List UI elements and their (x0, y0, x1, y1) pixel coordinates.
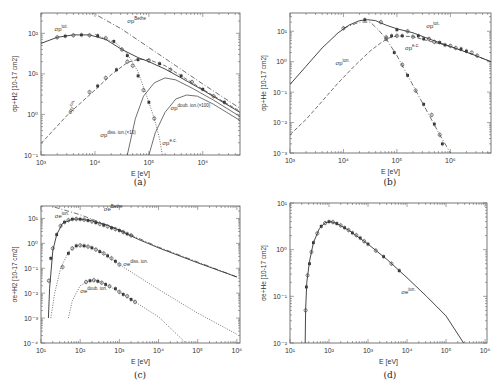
series-line (290, 20, 491, 85)
curve-annotation: σpdoub. ion.(×100) (170, 103, 210, 111)
x-tick-label: 10³ (36, 159, 47, 166)
y-axis-label: σe+H2 [10-17 cm2] (11, 246, 19, 302)
series-line (48, 219, 237, 318)
y-tick-label: 10¹ (277, 28, 288, 35)
x-tick-label: 10⁴ (153, 347, 164, 354)
y-tick-label: 10⁻⁴ (23, 340, 38, 347)
caption-b: (b) (370, 177, 410, 187)
y-tick-label: 10⁻² (24, 290, 39, 297)
y-tick-label: 10¹ (277, 200, 288, 207)
x-tick-label: 10⁴ (338, 157, 349, 164)
x-tick-label: 10⁶ (480, 347, 491, 354)
x-tick-label: 10⁴ (90, 159, 101, 166)
curve-annotation: σediss. ion. (123, 259, 148, 267)
x-axis-label: E [eV] (131, 358, 150, 366)
y-axis-label: σe+He [10-17 cm2] (260, 245, 268, 301)
y-tick-label: 10¹ (28, 70, 39, 77)
y-tick-label: 10⁻¹ (273, 89, 288, 96)
plot-frame (41, 206, 240, 343)
plot-frame (41, 13, 240, 155)
x-tick-label: 10³ (285, 157, 296, 164)
y-tick-label: 10⁻³ (24, 315, 39, 322)
curve-annotation: σeion. (401, 287, 415, 295)
x-tick-label: 10⁶ (445, 157, 456, 164)
caption-c: (c) (120, 370, 160, 380)
curve-annotation: σpdiss. ion.(×10) (100, 130, 136, 138)
x-tick-label: 10¹ (36, 347, 47, 354)
y-axis-label: σp+H2 [10-17 cm2] (11, 56, 19, 112)
x-tick-label: 10³ (114, 347, 125, 354)
x-tick-label: 10⁶ (197, 159, 208, 166)
x-tick-label: 10¹ (285, 347, 296, 354)
curve-annotation: σeBethe (104, 204, 123, 212)
y-tick-label: 10⁻² (273, 340, 288, 347)
series-line (90, 11, 241, 108)
x-tick-label: 10² (75, 347, 86, 354)
x-tick-label: 10⁵ (144, 159, 155, 166)
y-tick-label: 10⁻² (273, 119, 288, 126)
plot-frame (290, 13, 491, 153)
curve-annotation: σpBethe (127, 16, 146, 24)
curve-annotation: σeion. (55, 211, 69, 219)
caption-a: (a) (120, 177, 160, 187)
series-line (305, 222, 463, 343)
y-tick-label: 10⁻³ (273, 150, 288, 157)
y-tick-label: 10¹ (28, 215, 39, 222)
curve-annotation: σpe.c. (162, 138, 176, 146)
x-tick-label: 10⁵ (441, 347, 452, 354)
curve-annotation: σpion. (335, 58, 349, 66)
y-tick-label: 10⁰ (276, 58, 287, 65)
y-tick-label: 10⁻¹ (24, 265, 39, 272)
y-tick-label: 10⁻¹ (24, 152, 39, 159)
x-tick-label: 10³ (363, 347, 374, 354)
y-tick-label: 10² (28, 30, 39, 37)
curve-annotation: σptot. (54, 24, 67, 32)
x-tick-label: 10⁵ (392, 157, 403, 164)
chart-panel-c: 10¹10²10³10⁴10⁵10⁶10⁻⁴10⁻³10⁻²10⁻¹10⁰10¹… (11, 204, 242, 366)
chart-panel-b: 10³10⁴10⁵10⁶10⁻³10⁻²10⁻¹10⁰10¹E [eV]σp+H… (260, 13, 491, 176)
x-tick-label: 10⁵ (192, 347, 203, 354)
x-tick-label: 10⁶ (232, 347, 243, 354)
caption-d: (d) (370, 370, 410, 380)
x-tick-label: 10⁴ (402, 347, 413, 354)
y-tick-label: 10⁰ (27, 111, 38, 118)
y-tick-label: 10⁰ (27, 240, 38, 247)
curve-annotation: σpe.c. (405, 43, 419, 51)
chart-panel-d: 10¹10²10³10⁴10⁵10⁶10⁻²10⁻¹10⁰10¹E [eV]σe… (260, 200, 490, 367)
y-tick-label: 10⁻¹ (273, 293, 288, 300)
charts-canvas: 10³10⁴10⁵10⁶10⁻¹10⁰10¹10²E [eV]σp+H2 [10… (0, 0, 503, 391)
chart-panel-a: 10³10⁴10⁵10⁶10⁻¹10⁰10¹10²E [eV]σp+H2 [10… (11, 11, 240, 178)
x-tick-label: 10² (324, 347, 335, 354)
y-tick-label: 10⁰ (276, 246, 287, 253)
x-axis-label: E [eV] (381, 168, 400, 176)
curve-annotation: σptot. (426, 21, 439, 29)
y-axis-label: σp+He [10-17 cm2] (260, 55, 268, 111)
curve-annotation: σedoub. ion. (80, 286, 107, 294)
plot-frame (290, 203, 487, 343)
x-axis-label: E [eV] (379, 358, 398, 366)
